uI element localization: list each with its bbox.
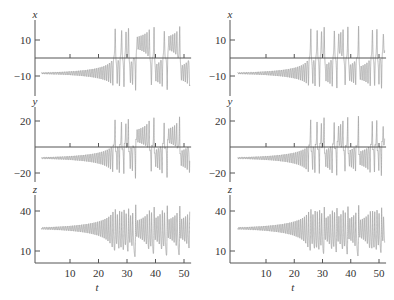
t-tick-label: 20 <box>93 267 105 279</box>
right-column-plots: 10−10x20−20y4010z1020304050t <box>209 8 386 293</box>
t-tick-label: 20 <box>289 267 301 279</box>
axis-label-t: t <box>96 281 100 293</box>
left-t-axis-labels: 1020304050t <box>65 267 191 293</box>
axis-label-x: x <box>32 8 38 20</box>
t-tick-label: 40 <box>345 267 357 279</box>
y-tick-label: 20 <box>20 115 32 127</box>
left-panel-z: 4010z <box>20 183 191 263</box>
right-panel-y: 20−20y <box>209 95 386 182</box>
right-panel-z: 4010z <box>215 183 386 263</box>
t-tick-label: 40 <box>150 267 162 279</box>
time-series-trace-y <box>238 116 385 175</box>
left-column-plots: 10−10x20−20y4010z1020304050t <box>14 8 191 293</box>
y-tick-label: 40 <box>20 205 32 217</box>
time-series-trace-z <box>42 205 190 257</box>
time-series-trace-y <box>42 117 190 179</box>
t-tick-label: 50 <box>374 267 386 279</box>
left-panel-x: 10−10x <box>14 8 191 96</box>
t-tick-label: 30 <box>122 267 134 279</box>
t-tick-label: 50 <box>179 267 191 279</box>
y-tick-label: 10 <box>215 34 227 46</box>
y-tick-label: −20 <box>209 167 227 179</box>
time-series-trace-x <box>238 26 385 88</box>
t-tick-label: 10 <box>65 267 77 279</box>
right-panel-x: 10−10x <box>209 8 386 96</box>
left-panel-y: 20−20y <box>14 95 191 182</box>
axis-label-y: y <box>227 95 233 107</box>
y-tick-label: −10 <box>209 70 227 82</box>
y-tick-label: 10 <box>20 34 32 46</box>
right-t-axis-labels: 1020304050t <box>261 267 386 293</box>
y-tick-label: 20 <box>215 115 227 127</box>
y-tick-label: 40 <box>215 205 227 217</box>
y-tick-label: −20 <box>14 167 32 179</box>
time-series-trace-z <box>238 205 385 256</box>
axis-label-z: z <box>32 183 38 195</box>
axis-label-y: y <box>32 95 38 107</box>
y-tick-label: 10 <box>215 245 227 257</box>
t-tick-label: 10 <box>261 267 273 279</box>
t-tick-label: 30 <box>317 267 329 279</box>
lorenz-figure: 10−10x20−20y4010z1020304050t 10−10x20−20… <box>0 0 394 300</box>
axis-label-z: z <box>227 183 233 195</box>
y-tick-label: 10 <box>20 245 32 257</box>
axis-label-x: x <box>227 8 233 20</box>
axis-label-t: t <box>291 281 295 293</box>
y-tick-label: −10 <box>14 70 32 82</box>
